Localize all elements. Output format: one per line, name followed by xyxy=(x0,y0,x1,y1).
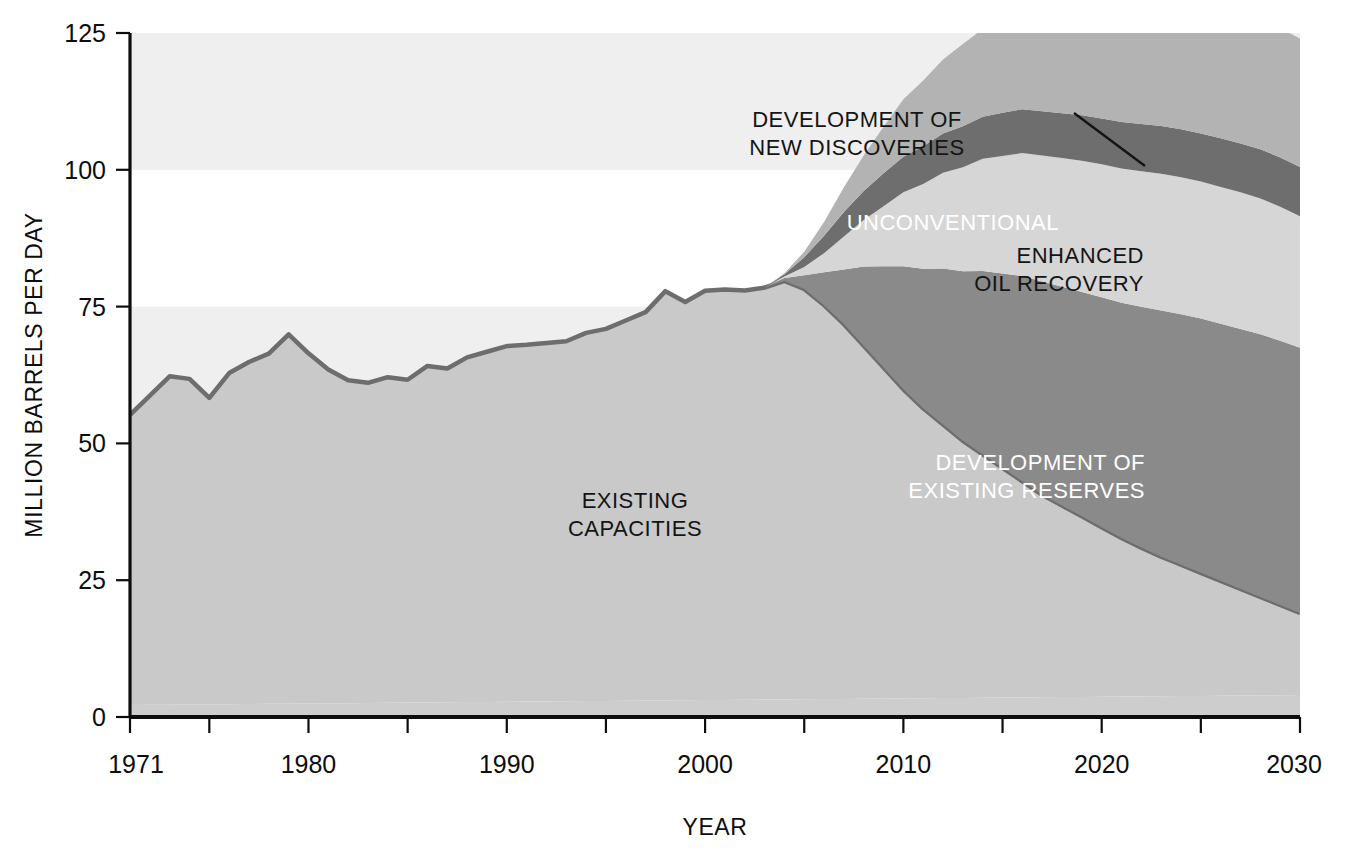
y-tick-label-75: 75 xyxy=(78,293,106,321)
x-tick-label-1971: 1971 xyxy=(108,750,164,778)
y-axis-title: MILLION BARRELS PER DAY xyxy=(21,212,47,537)
oil-supply-area-chart: 0255075100125 19711980199020002010202020… xyxy=(0,0,1347,865)
chart-svg: 0255075100125 19711980199020002010202020… xyxy=(0,0,1347,865)
y-tick-label-0: 0 xyxy=(92,703,106,731)
y-tick-label-50: 50 xyxy=(78,429,106,457)
x-axis-title: YEAR xyxy=(682,814,747,840)
annotation-text-unconventional: UNCONVENTIONAL xyxy=(847,210,1059,235)
y-tick-label-125: 125 xyxy=(64,19,106,47)
annotation-unconventional: UNCONVENTIONAL xyxy=(847,210,1059,235)
y-tick-label-25: 25 xyxy=(78,566,106,594)
x-tick-label-1990: 1990 xyxy=(479,750,535,778)
x-tick-label-1980: 1980 xyxy=(281,750,337,778)
y-tick-label-100: 100 xyxy=(64,156,106,184)
x-tick-label-2000: 2000 xyxy=(677,750,733,778)
x-tick-label-2010: 2010 xyxy=(876,750,932,778)
x-tick-label-2030: 2030 xyxy=(1266,750,1322,778)
x-tick-label-2020: 2020 xyxy=(1074,750,1130,778)
